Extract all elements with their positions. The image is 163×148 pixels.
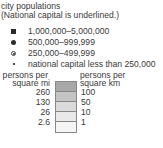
density-class-swatch — [55, 121, 77, 133]
density-km-value: 50 — [81, 98, 91, 107]
population-class-label: 500,000–999,999 — [28, 38, 95, 47]
population-class-label: national capital less than 250,000 — [28, 60, 156, 69]
population-class-label: 250,000–499,999 — [28, 49, 95, 58]
density-km-value: 1 — [81, 118, 86, 127]
density-km-value: 10 — [81, 108, 91, 117]
filled-square-icon — [11, 29, 16, 34]
density-mi-value: 26 — [0, 108, 50, 117]
small-dot-icon — [13, 63, 15, 65]
density-mi-value: 2.6 — [0, 118, 50, 127]
legend-subtitle: (National capital is underlined.) — [1, 11, 119, 20]
population-class-label: 1,000,000–5,000,000 — [28, 27, 109, 36]
filled-circle-icon — [11, 40, 16, 45]
density-mi-value: 130 — [0, 98, 50, 107]
density-mi-value: 260 — [0, 88, 50, 97]
ringed-circle-icon — [11, 51, 16, 56]
density-km-value: 100 — [81, 88, 95, 97]
